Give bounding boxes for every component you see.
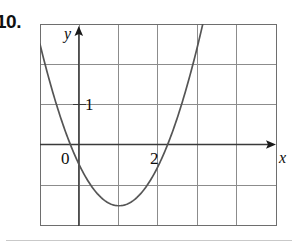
parabola-curve bbox=[40, 24, 207, 206]
graph-svg bbox=[40, 24, 277, 226]
page-divider-rule bbox=[6, 240, 292, 241]
figure-root: 10. bbox=[0, 0, 292, 249]
x-axis-label: x bbox=[279, 150, 286, 166]
parabola-graph-figure: y x 0 1 2 bbox=[40, 24, 277, 226]
y-axis-label: y bbox=[64, 26, 71, 42]
graph-border bbox=[41, 25, 277, 226]
problem-number-label: 10. bbox=[0, 12, 21, 31]
y-axis bbox=[75, 26, 84, 226]
grid-vertical-lines bbox=[80, 24, 237, 226]
y-tick-label-one: 1 bbox=[85, 96, 94, 113]
grid-horizontal-lines bbox=[40, 65, 277, 186]
x-tick-label-two: 2 bbox=[150, 150, 159, 167]
origin-tick-label: 0 bbox=[61, 150, 70, 167]
